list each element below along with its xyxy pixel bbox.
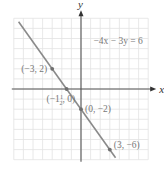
data-point [65, 87, 69, 91]
data-point [50, 67, 54, 71]
point-label: (0, −2) [85, 104, 111, 115]
point-label: (−3, 2) [21, 64, 47, 75]
y-axis-label: y [77, 0, 83, 10]
x-axis-label: x [158, 83, 164, 95]
y-axis-arrow-icon [79, 10, 84, 16]
point-label: (3, −6) [114, 140, 140, 151]
data-point [108, 148, 112, 152]
coordinate-plane: x y −4x − 3y = 6 (−3, 2)(−112, 0)(0, −2)… [0, 0, 164, 173]
equation-label: −4x − 3y = 6 [93, 36, 143, 46]
x-axis-arrow-icon [150, 87, 156, 92]
point-label: (−112, 0) [47, 94, 76, 106]
data-point [79, 107, 83, 111]
